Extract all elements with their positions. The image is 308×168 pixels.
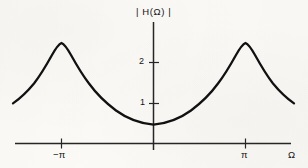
chart-title: | H(Ω) | xyxy=(136,7,171,17)
plot-canvas xyxy=(0,0,308,168)
x-axis-title: Ω xyxy=(288,150,295,160)
x-axis-tick-label-negative-pi: −π xyxy=(53,150,66,160)
y-axis-tick-label-1: 1 xyxy=(140,98,145,107)
frequency-response-figure: | H(Ω) | 2 1 −π π Ω xyxy=(0,0,308,168)
x-axis-tick-label-pi: π xyxy=(241,150,248,160)
y-axis-tick-label-2: 2 xyxy=(139,57,144,66)
